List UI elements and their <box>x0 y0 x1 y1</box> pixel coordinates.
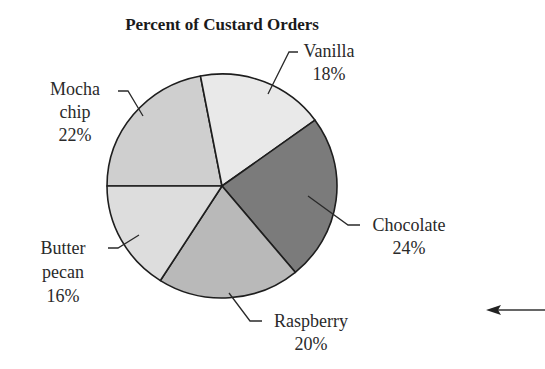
left-arrow-icon <box>486 305 545 315</box>
pie-slices <box>107 74 337 298</box>
label-raspberry-value: 20% <box>295 334 328 354</box>
label-butter-pecan-line2: pecan <box>42 262 84 282</box>
label-mocha-chip-line2: chip <box>60 102 91 122</box>
label-mocha-chip-line1: Mocha <box>50 79 100 99</box>
label-vanilla-value: 18% <box>313 64 346 84</box>
label-chocolate-value: 24% <box>393 238 426 258</box>
label-butter-pecan-line1: Butter <box>41 238 86 258</box>
pie-chart: Percent of Custard Orders Vanilla 18% Mo… <box>0 0 545 369</box>
label-chocolate-name: Chocolate <box>373 215 446 235</box>
label-mocha-chip: Mocha chip 22% <box>50 79 100 145</box>
label-vanilla-name: Vanilla <box>304 41 355 61</box>
chart-title: Percent of Custard Orders <box>125 15 319 34</box>
label-raspberry-name: Raspberry <box>274 311 348 331</box>
label-butter-pecan-value: 16% <box>47 286 80 306</box>
label-vanilla: Vanilla 18% <box>304 41 355 84</box>
label-butter-pecan: Butter pecan 16% <box>41 238 86 306</box>
label-mocha-chip-value: 22% <box>59 125 92 145</box>
label-raspberry: Raspberry 20% <box>274 311 348 354</box>
label-chocolate: Chocolate 24% <box>373 215 446 258</box>
